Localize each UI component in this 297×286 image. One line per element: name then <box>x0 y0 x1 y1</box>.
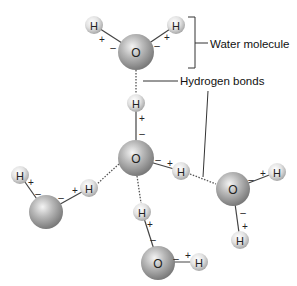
svg-text:–: – <box>150 234 156 245</box>
water-molecule-label: Water molecule <box>210 38 289 50</box>
hydrogen-label: H <box>195 257 203 269</box>
hydrogen-label: H <box>85 183 93 195</box>
svg-text:–: – <box>173 253 179 264</box>
svg-text:+: + <box>167 158 173 169</box>
hydrogen-label: H <box>90 20 98 32</box>
svg-text:–: – <box>248 174 254 185</box>
svg-text:–: – <box>154 40 160 51</box>
svg-text:–: – <box>58 192 64 203</box>
svg-text:–: – <box>139 128 145 139</box>
svg-text:+: + <box>147 219 153 230</box>
svg-text:–: – <box>155 154 161 165</box>
hydrogen-label: H <box>16 170 24 182</box>
svg-text:–: – <box>240 207 246 218</box>
hydrogen-label: H <box>236 235 244 247</box>
water-molecule-bracket <box>188 17 208 68</box>
svg-text:+: + <box>139 113 145 124</box>
svg-text:+: + <box>242 221 248 232</box>
hydrogen-label: H <box>172 20 180 32</box>
hydrogen-bond-lines <box>97 70 216 203</box>
svg-text:+: + <box>99 34 105 45</box>
hydrogen-bonds-label: Hydrogen bonds <box>180 75 265 87</box>
water-hydrogen-bond-diagram: Water molecule Hydrogen bonds O O O O H … <box>0 0 297 286</box>
hydrogen-label: H <box>132 98 140 110</box>
svg-text:+: + <box>164 32 170 43</box>
oxygen-label: O <box>153 257 162 271</box>
svg-text:–: – <box>35 188 41 199</box>
svg-text:–: – <box>110 42 116 53</box>
hydrogen-label: H <box>138 207 146 219</box>
svg-text:+: + <box>260 168 266 179</box>
oxygen-label: O <box>228 183 237 197</box>
hydrogen-label: H <box>177 166 185 178</box>
hydrogen-label: H <box>273 167 281 179</box>
oxygen-label: O <box>131 152 140 166</box>
svg-text:+: + <box>185 250 191 261</box>
svg-text:+: + <box>72 185 78 196</box>
svg-text:+: + <box>28 177 34 188</box>
oxygen-label: O <box>131 46 140 60</box>
